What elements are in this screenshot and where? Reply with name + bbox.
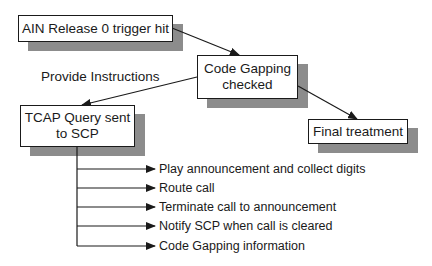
arrow-code-gapping-to-final	[298, 86, 357, 119]
arrow-trigger-to-code-gapping	[172, 28, 239, 55]
code-gapping-label-line2: checked	[222, 77, 272, 93]
instruction-item: Play announcement and collect digits	[159, 162, 365, 176]
provide-instructions-label: Provide Instructions	[41, 69, 160, 85]
instruction-item: Code Gapping information	[159, 239, 305, 253]
final-treatment-box: Final treatment	[308, 119, 408, 144]
tcap-label-line1: TCAP Query sent	[25, 110, 131, 126]
tcap-label-line2: to SCP	[56, 126, 99, 142]
code-gapping-box: Code Gapping checked	[197, 55, 298, 99]
instruction-item: Notify SCP when call is cleared	[159, 219, 332, 233]
final-treatment-label: Final treatment	[313, 124, 403, 140]
trigger-label: AIN Release 0 trigger hit	[22, 21, 169, 37]
instruction-item: Route call	[159, 181, 215, 195]
code-gapping-label-line1: Code Gapping	[204, 61, 291, 77]
tcap-box: TCAP Query sent to SCP	[20, 105, 135, 147]
instruction-item: Terminate call to announcement	[159, 200, 336, 214]
trigger-box: AIN Release 0 trigger hit	[18, 15, 173, 42]
